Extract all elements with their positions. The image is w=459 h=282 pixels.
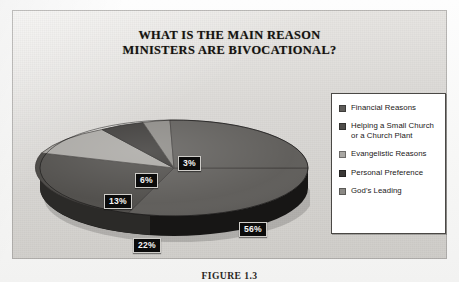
legend-swatch-icon xyxy=(339,105,346,112)
legend-item-label: Evangelistic Reasons xyxy=(351,149,427,158)
legend-item-label: Helping a Small Church or a Church Plant xyxy=(351,121,434,140)
legend-swatch-icon xyxy=(339,123,346,130)
legend-swatch-icon xyxy=(339,151,346,158)
pie-label-3: 3% xyxy=(178,156,201,171)
legend-item-gods-leading[interactable]: God's Leading xyxy=(339,186,439,195)
legend-item-personal-preference[interactable]: Personal Preference xyxy=(339,168,439,177)
pie-label-56: 56% xyxy=(239,222,267,237)
pie-label-22: 22% xyxy=(133,238,161,253)
figure-caption: FIGURE 1.3 xyxy=(0,270,459,282)
pie-chart-svg xyxy=(30,72,310,244)
legend-item-helping-small-church[interactable]: Helping a Small Church or a Church Plant xyxy=(339,121,439,140)
legend-item-label: Personal Preference xyxy=(351,168,423,177)
pie-label-6: 6% xyxy=(135,173,158,188)
chart-title-line2: MINISTERS ARE BIVOCATIONAL? xyxy=(12,43,447,58)
pie-sheen xyxy=(40,120,308,216)
chart-panel: WHAT IS THE MAIN REASON MINISTERS ARE BI… xyxy=(12,10,447,259)
legend-swatch-icon xyxy=(339,188,346,195)
legend-item-financial-reasons[interactable]: Financial Reasons xyxy=(339,103,439,112)
chart-title: WHAT IS THE MAIN REASON MINISTERS ARE BI… xyxy=(12,28,447,57)
chart-title-line1: WHAT IS THE MAIN REASON xyxy=(138,28,320,42)
legend-item-label: Financial Reasons xyxy=(351,103,416,112)
pie-label-13: 13% xyxy=(104,194,132,209)
pie-chart: 56% 22% 13% 6% 3% xyxy=(30,72,310,244)
chart-legend: Financial Reasons Helping a Small Church… xyxy=(331,93,446,234)
legend-item-evangelistic-reasons[interactable]: Evangelistic Reasons xyxy=(339,149,439,158)
legend-swatch-icon xyxy=(339,170,346,177)
legend-item-label: God's Leading xyxy=(351,186,402,195)
